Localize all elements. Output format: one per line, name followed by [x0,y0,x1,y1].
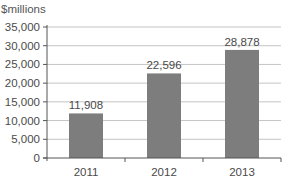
x-tick-label: 2013 [229,166,255,178]
bar-2011 [69,113,103,158]
y-axis: 05,00010,00015,00020,00025,00030,00035,0… [5,21,47,164]
y-tick-label: 0 [34,152,40,164]
x-tick-label: 2011 [74,166,99,178]
y-tick-label: 30,000 [5,40,40,52]
x-axis: 201120122013 [43,158,281,178]
bar-2012 [147,73,181,158]
y-tick-label: 20,000 [5,77,40,89]
value-label: 28,878 [224,36,259,48]
bars: 11,90822,59628,878 [69,36,260,158]
y-tick-label: 5,000 [11,133,40,145]
y-tick-label: 25,000 [5,58,40,70]
bar-2013 [225,50,259,158]
y-tick-label: 10,000 [5,115,40,127]
y-tick-label: 15,000 [5,96,40,108]
value-label: 11,908 [69,99,103,111]
value-label: 22,596 [146,59,181,71]
y-tick-label: 35,000 [5,21,40,33]
bar-chart: 05,00010,00015,00020,00025,00030,00035,0… [0,0,288,183]
x-tick-label: 2012 [151,166,177,178]
